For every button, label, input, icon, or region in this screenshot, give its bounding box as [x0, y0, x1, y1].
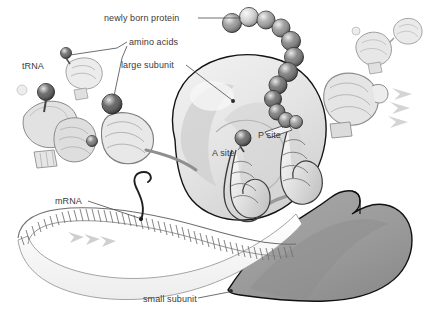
- trna-free-upper-tab: [74, 88, 88, 100]
- label-small-subunit: small subunit: [143, 294, 197, 304]
- trna-exiting-mid-bead: [352, 27, 360, 35]
- leader-mrna: [88, 201, 139, 218]
- amino-acid-a-site: [235, 130, 251, 146]
- amino-acid-upper-stem: [66, 58, 70, 64]
- leader-amino-acids-to-lower: [114, 46, 127, 96]
- trna-exiting-group: [324, 18, 422, 138]
- amino-acid-on-free-trna-lower: [38, 84, 55, 101]
- label-p-site: P site: [258, 130, 281, 140]
- motion-chevrons: [388, 88, 412, 128]
- trna-exiting-near: [324, 73, 379, 125]
- amino-acid-on-free-trna-upper: [61, 48, 72, 59]
- trna-free-left-group: [17, 58, 102, 168]
- label-a-site: A site: [212, 148, 235, 158]
- leader-amino-acids-to-upper: [70, 42, 127, 55]
- small-subunit-leader-dot: [229, 289, 233, 293]
- trna-exiting-near-foot: [330, 122, 352, 138]
- amino-acid-incoming: [102, 94, 122, 114]
- mrna-motion-arrows: [68, 232, 116, 247]
- label-newly-born-protein: newly born protein: [104, 13, 179, 23]
- ribosome-diagram-svg: [0, 0, 435, 321]
- mrna-tail-node: [139, 217, 143, 221]
- amino-acid-left-loose: [87, 136, 98, 147]
- trna-incoming-body: [101, 113, 153, 164]
- label-large-subunit: large subunit: [121, 60, 174, 70]
- leader-small-subunit: [198, 292, 229, 298]
- label-mrna: mRNA: [55, 196, 82, 206]
- trna-free-orphan-bead: [17, 85, 27, 95]
- label-amino-acids: amino acids: [129, 37, 178, 47]
- trna-exiting-mid-foot: [368, 62, 382, 74]
- label-trna: tRNA: [22, 61, 44, 71]
- figure-root: newly born protein amino acids large sub…: [0, 0, 435, 321]
- trna-free-foot: [34, 150, 57, 168]
